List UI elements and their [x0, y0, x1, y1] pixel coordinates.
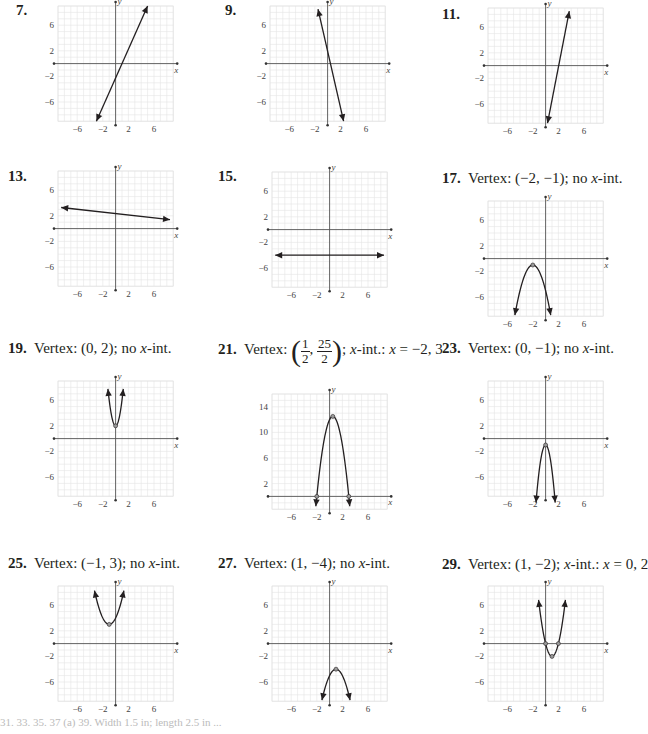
caption-text: Vertex:	[244, 341, 291, 357]
y-tick-label: −2	[474, 651, 484, 661]
y-tick-label: 6	[480, 600, 485, 610]
y-tick-label: 2	[262, 46, 267, 56]
x-tick-label: −6	[286, 704, 296, 714]
y-axis-label: y	[547, 0, 552, 8]
y-tick-label: 14	[259, 402, 269, 412]
y-axis-label: y	[547, 191, 552, 201]
x-tick-label: −6	[502, 499, 512, 509]
y-tick-label: −6	[44, 472, 54, 482]
x-tick-label: 2	[126, 124, 130, 134]
x-tick-label: 6	[582, 704, 587, 714]
denominator: 2	[317, 352, 332, 366]
caption-text: -int.:	[571, 556, 604, 572]
y-axis-label: y	[117, 0, 122, 6]
arrow-head-icon	[513, 308, 519, 315]
caption-23: 23. Vertex: (0, −1); no x-int.	[442, 340, 614, 357]
x-tick-label: −6	[72, 704, 82, 714]
caption-27: 27. Vertex: (1, −4); no x-int.	[218, 555, 390, 572]
y-tick-label: 6	[50, 600, 55, 610]
y-tick-label: −2	[44, 71, 54, 81]
y-tick-label: −2	[258, 237, 268, 247]
caption-text: -int.:	[357, 341, 390, 357]
caption-21: 21. Vertex: (12, 252); x-int.: x = −2, 3	[218, 334, 443, 368]
y-tick-label: 2	[480, 48, 485, 58]
numerator: 1	[301, 337, 310, 352]
x-tick-label: −6	[72, 289, 82, 299]
caption-text: = 0, 2	[610, 556, 648, 572]
y-tick-label: 6	[480, 215, 485, 225]
arrow-head-icon	[316, 9, 322, 17]
x-tick-label: 6	[582, 126, 587, 136]
arrow-head-icon	[93, 591, 99, 599]
intercept-point	[347, 494, 351, 498]
numerator: 25	[317, 337, 332, 352]
y-axis-label: y	[117, 576, 122, 586]
problem-number-15: 15.	[218, 168, 237, 185]
y-axis-label: y	[547, 576, 552, 586]
x-tick-label: −6	[72, 124, 82, 134]
arrow-head-icon	[546, 116, 552, 123]
x-axis-label: x	[603, 645, 608, 655]
x-tick-label: 2	[556, 704, 561, 714]
x-tick-label: 2	[126, 289, 130, 299]
problem-number-11: 11.	[442, 6, 460, 23]
x-tick-label: 6	[152, 499, 157, 509]
x-axis-label: x	[385, 65, 390, 75]
x-tick-label: 6	[152, 704, 157, 714]
problem-number-23: 23.	[442, 340, 461, 356]
caption-var: x	[140, 340, 147, 356]
caption-var: x	[389, 341, 396, 357]
caption-text: Vertex: (0, 2); no	[34, 340, 140, 356]
x-axis-label: x	[387, 231, 392, 241]
y-tick-label: 6	[264, 186, 269, 196]
caption-text: Vertex: (0, −1); no	[468, 340, 583, 356]
x-tick-label: 2	[556, 126, 561, 136]
problem-number-19: 19.	[8, 340, 27, 356]
y-tick-label: 2	[480, 421, 485, 431]
x-axis-label: x	[173, 440, 178, 450]
y-tick-label: 2	[50, 211, 55, 221]
y-tick-label: 2	[50, 626, 55, 636]
caption-var: x	[591, 170, 598, 186]
caption-text: Vertex: (−2, −1); no	[468, 170, 591, 186]
caption-29: 29. Vertex: (1, −2); x-int.: x = 0, 2	[442, 556, 648, 573]
caption-text: -int.	[598, 170, 623, 186]
graph-11: xy−6−22662−2−6	[470, 2, 610, 132]
y-tick-label: −6	[44, 262, 54, 272]
x-axis-label: x	[173, 65, 178, 75]
problem-number-7: 7.	[16, 2, 27, 19]
y-tick-label: −2	[474, 446, 484, 456]
problem-number-25: 25.	[8, 555, 27, 571]
caption-19: 19. Vertex: (0, 2); no x-int.	[8, 340, 171, 357]
x-tick-label: 2	[126, 499, 130, 509]
x-tick-label: 2	[126, 704, 130, 714]
problem-number-9: 9.	[225, 2, 236, 19]
x-axis-label: x	[173, 230, 178, 240]
x-tick-label: −6	[286, 290, 296, 300]
x-tick-label: −2	[312, 512, 322, 522]
intercept-point	[556, 642, 560, 646]
graph-15: xy−6−22662−2−6	[254, 166, 394, 296]
x-tick-label: 6	[366, 704, 371, 714]
graph-29: xy−6−22662−2−6	[470, 580, 610, 710]
x-tick-label: 6	[582, 319, 587, 329]
y-tick-label: 2	[480, 626, 485, 636]
y-tick-label: −6	[474, 677, 484, 687]
arrow-head-icon	[546, 308, 552, 315]
x-tick-label: −2	[98, 499, 108, 509]
y-axis-label: y	[117, 161, 122, 171]
caption-25: 25. Vertex: (−1, 3); no x-int.	[8, 555, 180, 572]
y-tick-label: 10	[259, 427, 269, 437]
y-tick-label: −2	[258, 651, 268, 661]
y-tick-label: 6	[50, 185, 55, 195]
y-tick-label: −2	[44, 446, 54, 456]
y-tick-label: −6	[44, 97, 54, 107]
x-tick-label: −2	[528, 704, 538, 714]
graph-19: xy−6−22662−2−6	[40, 375, 180, 505]
problem-number-13: 13.	[8, 168, 27, 185]
y-tick-label: −6	[44, 677, 54, 687]
x-tick-label: −2	[98, 704, 108, 714]
x-tick-label: 6	[366, 290, 371, 300]
vertex-point	[114, 424, 118, 428]
paren-open: (	[291, 334, 301, 367]
